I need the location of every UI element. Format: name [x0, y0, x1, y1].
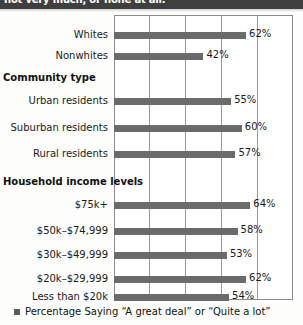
bar-category-label: $50k–$74,999 — [0, 225, 108, 236]
section-header: Community type — [3, 72, 96, 83]
cut-off-title-band: not very much, or none at all. — [0, 0, 303, 9]
band-shadow — [0, 9, 303, 12]
legend: Percentage Saying “A great deal” or “Qui… — [14, 306, 271, 317]
bar — [114, 228, 238, 235]
bar-category-label: Suburban residents — [0, 122, 108, 133]
bar-value-label: 57% — [238, 147, 260, 158]
bar-row: Whites62% — [0, 26, 303, 46]
bar-value-label: 60% — [245, 121, 267, 132]
bar-category-label: $75k+ — [0, 199, 108, 210]
bar-row: Rural residents57% — [0, 145, 303, 165]
bar-row: $75k+64% — [0, 196, 303, 216]
bar-category-label: Less than $20k — [0, 291, 108, 302]
bar-value-label: 58% — [241, 224, 263, 235]
bar — [114, 125, 242, 132]
bar-row: Nonwhites42% — [0, 47, 303, 67]
bar-category-label: $30k–$49,999 — [0, 249, 108, 260]
bar-category-label: Urban residents — [0, 95, 108, 106]
section-header: Household income levels — [3, 176, 143, 187]
bar — [114, 294, 229, 301]
bar-category-label: Rural residents — [0, 148, 108, 159]
bar — [114, 276, 246, 283]
cut-off-title-text: not very much, or none at all. — [4, 0, 165, 5]
bar — [114, 53, 203, 60]
bar-value-label: 64% — [253, 198, 275, 209]
bar-value-label: 62% — [249, 28, 271, 39]
bar — [114, 32, 246, 39]
legend-label: Percentage Saying “A great deal” or “Qui… — [25, 306, 271, 317]
bar — [114, 202, 250, 209]
bar — [114, 252, 227, 259]
bar-value-label: 42% — [206, 49, 228, 60]
bar — [114, 98, 231, 105]
bar-category-label: Whites — [0, 29, 108, 40]
bar-row: $30k–$49,99953% — [0, 246, 303, 266]
bar-value-label: 62% — [249, 272, 271, 283]
bar-row: Urban residents55% — [0, 92, 303, 112]
bar-value-label: 55% — [234, 94, 256, 105]
bar-value-label: 53% — [230, 248, 252, 259]
square-marker-icon — [14, 309, 20, 315]
bar-row: Less than $20k54% — [0, 288, 303, 308]
bar-row: Suburban residents60% — [0, 119, 303, 139]
bar-row: $50k–$74,99958% — [0, 222, 303, 242]
bar-category-label: Nonwhites — [0, 50, 108, 61]
bar — [114, 151, 235, 158]
bar-value-label: 54% — [232, 290, 254, 301]
bar-category-label: $20k–$29,999 — [0, 273, 108, 284]
bar-chart-figure: not very much, or none at all. Community… — [0, 0, 303, 325]
bar-row: $20k–$29,99962% — [0, 270, 303, 290]
